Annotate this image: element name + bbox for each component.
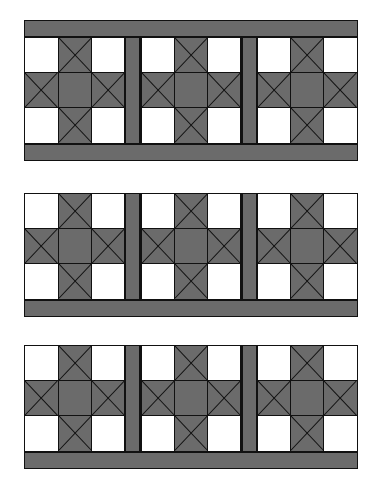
block-cell-bottom-right	[323, 263, 357, 299]
block-cell-middle-right	[91, 72, 125, 108]
ohio-star-block	[140, 193, 241, 300]
panel-2-bottom-border	[24, 300, 358, 317]
block-cell-top-left	[257, 193, 291, 229]
hourglass-unit	[258, 229, 290, 263]
hourglass-unit	[142, 381, 174, 415]
hourglass-unit	[142, 73, 174, 107]
hourglass-unit	[258, 73, 290, 107]
block-cell-bottom-left	[257, 415, 291, 451]
block-cell-middle-left	[141, 228, 175, 264]
hourglass-unit	[324, 73, 356, 107]
block-cell-bottom-left	[257, 263, 291, 299]
block-cell-bottom-center	[58, 107, 92, 143]
block-cell-bottom-left	[24, 415, 58, 451]
block-cell-center	[290, 72, 324, 108]
hourglass-unit	[59, 346, 91, 380]
block-cell-center	[290, 228, 324, 264]
block-cell-top-center	[290, 193, 324, 229]
block-cell-middle-left	[257, 380, 291, 416]
block-cell-top-right	[91, 345, 125, 381]
quilt-panel-1	[24, 20, 358, 161]
hourglass-unit	[324, 381, 356, 415]
block-cell-bottom-right	[91, 107, 125, 143]
vertical-sashing-strip	[125, 345, 140, 452]
vertical-sashing-strip	[125, 193, 140, 300]
block-cell-top-center	[58, 345, 92, 381]
ohio-star-block	[257, 37, 358, 144]
block-cell-bottom-right	[91, 415, 125, 451]
block-cell-center	[58, 380, 92, 416]
block-cell-center	[174, 228, 208, 264]
hourglass-unit	[25, 73, 57, 107]
block-cell-bottom-left	[257, 107, 291, 143]
block-cell-bottom-center	[290, 263, 324, 299]
hourglass-unit	[175, 108, 207, 142]
hourglass-unit	[25, 229, 57, 263]
block-cell-top-right	[207, 37, 241, 73]
panel-1-body	[24, 37, 358, 144]
block-cell-top-left	[24, 193, 58, 229]
block-cell-top-center	[174, 37, 208, 73]
block-cell-bottom-center	[58, 263, 92, 299]
block-cell-bottom-right	[323, 415, 357, 451]
hourglass-unit	[59, 264, 91, 298]
block-cell-top-left	[257, 37, 291, 73]
panel-2-body	[24, 193, 358, 300]
block-cell-bottom-center	[174, 415, 208, 451]
vertical-sashing-strip	[125, 37, 140, 144]
block-cell-middle-left	[141, 380, 175, 416]
hourglass-unit	[258, 381, 290, 415]
block-cell-middle-right	[207, 72, 241, 108]
hourglass-unit	[208, 229, 240, 263]
ohio-star-block	[257, 345, 358, 452]
hourglass-unit	[291, 346, 323, 380]
vertical-sashing-strip	[242, 193, 257, 300]
block-cell-top-center	[174, 193, 208, 229]
block-cell-middle-right	[91, 380, 125, 416]
block-cell-top-right	[91, 37, 125, 73]
block-cell-center	[174, 380, 208, 416]
block-cell-middle-right	[207, 228, 241, 264]
hourglass-unit	[208, 73, 240, 107]
block-cell-center	[174, 72, 208, 108]
block-cell-top-center	[58, 193, 92, 229]
panel-1-bottom-border	[24, 144, 358, 161]
block-cell-top-center	[290, 345, 324, 381]
block-cell-middle-left	[141, 72, 175, 108]
block-cell-middle-right	[91, 228, 125, 264]
block-cell-bottom-right	[207, 263, 241, 299]
block-cell-center	[58, 228, 92, 264]
block-cell-top-right	[323, 37, 357, 73]
block-cell-bottom-center	[174, 107, 208, 143]
hourglass-unit	[291, 38, 323, 72]
hourglass-unit	[175, 416, 207, 450]
block-cell-bottom-right	[323, 107, 357, 143]
block-cell-bottom-right	[207, 415, 241, 451]
hourglass-unit	[142, 229, 174, 263]
block-cell-bottom-left	[141, 415, 175, 451]
ohio-star-block	[140, 37, 241, 144]
block-cell-top-center	[58, 37, 92, 73]
block-cell-top-left	[257, 345, 291, 381]
ohio-star-block	[24, 193, 125, 300]
hourglass-unit	[59, 108, 91, 142]
block-cell-center	[58, 72, 92, 108]
block-cell-top-right	[91, 193, 125, 229]
block-cell-middle-right	[323, 228, 357, 264]
block-cell-top-left	[141, 193, 175, 229]
quilt-figure	[0, 0, 379, 482]
block-cell-center	[290, 380, 324, 416]
ohio-star-block	[257, 193, 358, 300]
vertical-sashing-strip	[242, 37, 257, 144]
hourglass-unit	[59, 194, 91, 228]
block-cell-top-center	[174, 345, 208, 381]
hourglass-unit	[291, 264, 323, 298]
ohio-star-block	[140, 345, 241, 452]
block-cell-bottom-left	[141, 107, 175, 143]
hourglass-unit	[59, 38, 91, 72]
block-cell-middle-right	[323, 380, 357, 416]
block-cell-middle-left	[257, 228, 291, 264]
quilt-panel-3	[24, 345, 358, 469]
block-cell-bottom-center	[174, 263, 208, 299]
hourglass-unit	[92, 73, 124, 107]
